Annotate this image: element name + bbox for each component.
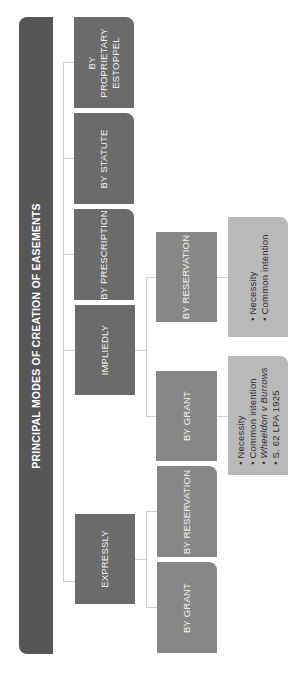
implied-grant-points: Necessity Common intention Wheeldon v Bu…: [228, 356, 288, 475]
connector-express-grant: [146, 607, 157, 608]
connector-implied-reservation-points: [217, 277, 228, 278]
point-list: Necessity Common intention Wheeldon v Bu…: [235, 367, 281, 465]
node-by-prescription: BY PRESCRIPTION: [74, 209, 134, 300]
node-label: BY RESERVATION: [181, 235, 193, 319]
diagram-title: PRINCIPAL MODES OF CREATION OF EASEMENTS: [30, 203, 42, 468]
node-by-proprietary-estoppel: BY PROPRIETARY ESTOPPEL: [74, 17, 134, 108]
connector-express-stub: [135, 559, 146, 560]
diagram-title-bar: PRINCIPAL MODES OF CREATION OF EASEMENTS: [19, 17, 53, 654]
point-item: Wheeldon v Burrows: [258, 367, 270, 465]
node-express-by-grant: BY GRANT: [157, 562, 217, 653]
node-implied-by-reservation: BY RESERVATION: [156, 232, 217, 322]
node-by-statute: BY STATUTE: [74, 113, 134, 204]
connector-implied-reservation: [146, 277, 156, 278]
node-impliedly: IMPLIEDLY: [75, 305, 135, 395]
node-label: BY STATUTE: [98, 129, 110, 188]
node-implied-by-grant: BY GRANT: [156, 371, 217, 461]
node-label: BY GRANT: [181, 583, 193, 633]
connector-implied-trunk: [146, 277, 147, 417]
node-label: EXPRESSLY: [99, 530, 111, 588]
connector-express-reservation: [146, 511, 157, 512]
connector-impliedly: [63, 350, 75, 351]
connector-expressly: [63, 581, 75, 582]
node-express-by-reservation: BY RESERVATION: [157, 466, 217, 557]
node-label: BY PROPRIETARY ESTOPPEL: [86, 28, 122, 97]
trunk-connector: [63, 62, 64, 582]
point-list: Necessity Common intention: [247, 234, 270, 321]
point-item: Common intention: [258, 234, 270, 321]
node-label: BY RESERVATION: [181, 469, 193, 553]
connector-implied-stub: [135, 350, 146, 351]
connector-implied-grant: [146, 416, 156, 417]
node-label: IMPLIEDLY: [99, 325, 111, 376]
point-item: Common intention: [247, 367, 259, 465]
node-label: BY PRESCRIPTION: [98, 210, 110, 299]
node-expressly: EXPRESSLY: [75, 514, 135, 604]
connector-express-trunk: [146, 511, 147, 608]
point-item: S. 62 LPA 1925: [270, 367, 282, 465]
point-item: Necessity: [247, 234, 259, 321]
implied-reservation-points: Necessity Common intention: [228, 217, 288, 337]
node-label: BY GRANT: [181, 391, 193, 441]
connector-implied-grant-points: [217, 416, 228, 417]
point-item: Necessity: [235, 367, 247, 465]
